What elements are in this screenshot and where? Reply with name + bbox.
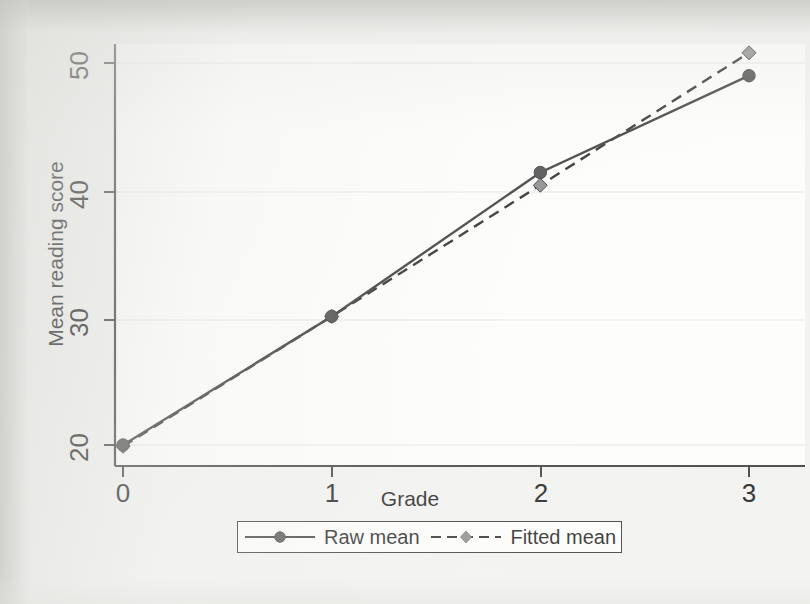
- x-tick-label-1: 1: [312, 478, 352, 509]
- y-tick-label-30: 30: [64, 300, 95, 346]
- legend-key-solid-circle-icon: [243, 528, 317, 546]
- data-point-marker: [534, 166, 546, 178]
- chart-figure: 50 40 30 20 0 1 2 3 Mean reading score G…: [0, 0, 810, 604]
- plot-canvas: [0, 0, 810, 604]
- figure-page: 50 40 30 20 0 1 2 3 Mean reading score G…: [0, 0, 810, 604]
- y-tick-marks: [104, 63, 115, 445]
- x-tick-label-3: 3: [729, 478, 769, 509]
- y-axis-title: Mean reading score: [44, 154, 68, 354]
- x-tick-label-0: 0: [103, 478, 143, 509]
- data-point-marker: [743, 70, 755, 82]
- plot-area-background: [115, 44, 805, 466]
- legend-label-raw-mean: Raw mean: [324, 526, 420, 549]
- x-tick-marks: [123, 466, 749, 477]
- x-axis-title: Grade: [360, 487, 460, 511]
- y-tick-label-50: 50: [64, 43, 95, 89]
- x-tick-label-2: 2: [521, 478, 561, 509]
- legend-label-fitted-mean: Fitted mean: [510, 526, 616, 549]
- legend-entry-fitted-mean: Fitted mean: [429, 526, 616, 549]
- data-point-marker: [325, 310, 337, 322]
- legend: Raw mean Fitted mean: [237, 521, 622, 553]
- y-tick-label-20: 20: [64, 425, 95, 471]
- data-point-marker: [117, 439, 129, 451]
- y-tick-label-40: 40: [64, 172, 95, 218]
- legend-key-dashed-diamond-icon: [429, 528, 503, 546]
- legend-entry-raw-mean: Raw mean: [243, 526, 420, 549]
